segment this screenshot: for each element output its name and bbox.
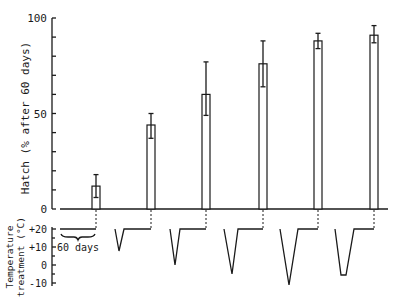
- temp-tick-label-p10: +10: [29, 242, 47, 253]
- temp-profile-6: [335, 229, 374, 275]
- bar-5: [314, 33, 322, 209]
- y-tick-label-100: 100: [27, 12, 47, 25]
- bar-connectors: [96, 210, 374, 229]
- y-axis-title: Hatch (% after 60 days): [19, 42, 32, 194]
- temp-axis-title-line1: Temperature: [4, 225, 15, 288]
- bar-4: [259, 41, 267, 209]
- bar-6: [370, 26, 378, 209]
- temp-profile-2: [115, 229, 151, 251]
- temp-tick-label-0: 0: [41, 260, 47, 271]
- bar-2: [147, 114, 155, 210]
- duration-brace: [61, 234, 95, 240]
- temperature-panel: +20 +10 0 -10 Temperature treatment (°C)…: [4, 217, 374, 297]
- bar-1: [92, 175, 100, 209]
- temp-profile-5: [280, 229, 318, 285]
- y-tick-label-50: 50: [34, 108, 47, 121]
- temp-axis-title-line2: treatment (°C): [15, 217, 26, 297]
- temp-tick-label-p20: +20: [29, 224, 47, 235]
- temp-profile-3: [170, 229, 206, 265]
- y-tick-label-0: 0: [40, 203, 47, 216]
- duration-label: 60 days: [57, 242, 99, 253]
- hatch-panel: 100 50 0 Hatch (% after 60 days): [19, 12, 388, 229]
- temp-profile-4: [224, 229, 263, 274]
- temp-tick-label-m10: -10: [29, 278, 47, 289]
- bar-3: [202, 62, 210, 209]
- bars: [92, 26, 378, 209]
- hatch-chart: 100 50 0 Hatch (% after 60 days): [0, 0, 399, 302]
